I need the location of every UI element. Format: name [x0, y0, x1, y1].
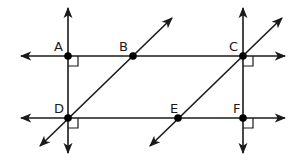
label-B: B: [119, 39, 128, 54]
line-BD: [40, 18, 172, 146]
point-B: [129, 52, 137, 60]
point-A: [64, 52, 72, 60]
point-C: [239, 52, 247, 60]
label-D: D: [54, 101, 64, 116]
label-A: A: [54, 39, 63, 54]
label-C: C: [229, 39, 238, 54]
line-CE: [150, 18, 282, 146]
label-E: E: [170, 101, 178, 116]
label-F: F: [233, 101, 240, 116]
geometry-diagram: A B C D E F: [0, 0, 298, 165]
point-D: [64, 114, 72, 122]
